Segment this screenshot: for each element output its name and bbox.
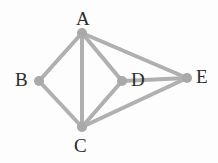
graph-node-e <box>182 73 192 83</box>
graph-edge-a-b <box>39 33 82 81</box>
graph-figure: ABCDE <box>0 0 218 163</box>
vertex-label-e: E <box>196 67 208 86</box>
graph-canvas <box>0 0 218 163</box>
graph-node-c <box>77 122 87 132</box>
graph-edge-b-c <box>39 81 82 127</box>
graph-edge-c-d <box>82 81 122 127</box>
graph-node-d <box>117 76 127 86</box>
vertex-label-c: C <box>74 136 87 155</box>
graph-node-b <box>34 76 44 86</box>
graph-node-a <box>77 28 87 38</box>
vertex-label-a: A <box>76 9 90 28</box>
edge-layer <box>39 33 187 127</box>
vertex-label-b: B <box>15 70 28 89</box>
vertex-label-d: D <box>131 70 145 89</box>
